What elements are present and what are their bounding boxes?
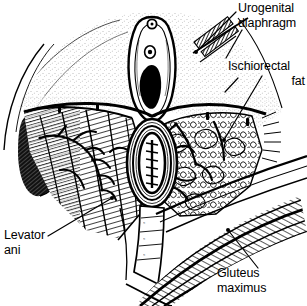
- illustration-canvas: ≈≈≈: [0, 0, 307, 306]
- label-gluteus-maximus-line1: Gluteus: [217, 266, 266, 281]
- label-gluteus-maximus: Gluteus maximus: [217, 266, 266, 295]
- vulva-introitus: [129, 17, 176, 122]
- label-levator-ani: Levator ani: [4, 228, 45, 257]
- label-ischiorectal-fat-line1: Ischiorectal: [228, 59, 305, 74]
- label-urogenital-diaphragm-line1: Urogenital: [238, 1, 296, 16]
- label-ischiorectal-fat-line2: fat: [228, 74, 305, 89]
- label-levator-ani-line2: ani: [4, 243, 45, 258]
- label-levator-ani-line1: Levator: [4, 228, 45, 243]
- label-gluteus-maximus-line2: maximus: [217, 281, 266, 296]
- label-ischiorectal-fat: Ischiorectal fat: [228, 59, 305, 88]
- anatomical-figure: ≈≈≈: [0, 0, 307, 306]
- label-urogenital-diaphragm-line2: diaphragm: [238, 16, 296, 31]
- label-urogenital-diaphragm: Urogenital diaphragm: [238, 1, 296, 30]
